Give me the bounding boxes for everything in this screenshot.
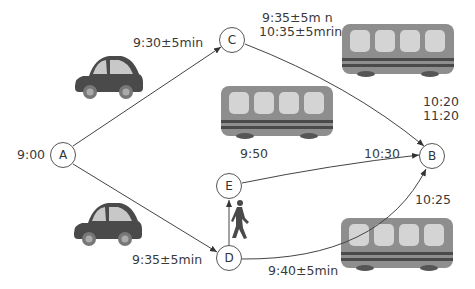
node-b-label: B bbox=[428, 149, 436, 163]
a-time-label: 9:00 bbox=[17, 147, 45, 162]
node-d: D bbox=[216, 245, 242, 271]
node-c-label: C bbox=[228, 33, 236, 47]
b-time-line2: 11:20 bbox=[423, 108, 459, 123]
node-a: A bbox=[50, 142, 76, 168]
eb-end-label: 10:30 bbox=[364, 146, 400, 161]
bus-icon bbox=[221, 86, 333, 139]
node-c: C bbox=[219, 27, 245, 53]
db-end-label: 10:25 bbox=[415, 192, 451, 207]
db-start-label: 9:40±5min bbox=[268, 263, 338, 278]
node-b: B bbox=[419, 143, 445, 169]
ad-time-label: 9:35±5min bbox=[132, 252, 202, 267]
cb-time-line1: 9:35±5m n bbox=[262, 10, 333, 25]
node-d-label: D bbox=[224, 251, 233, 265]
node-e-label: E bbox=[225, 179, 233, 193]
node-a-label: A bbox=[59, 148, 67, 162]
bus-icon bbox=[341, 218, 453, 271]
car-icon bbox=[74, 203, 142, 246]
node-e: E bbox=[216, 173, 242, 199]
b-time-line1: 10:20 bbox=[423, 94, 459, 109]
car-icon bbox=[75, 56, 143, 99]
ac-time-label: 9:30±5min bbox=[133, 35, 203, 50]
pedestrian-icon bbox=[231, 200, 249, 239]
eb-start-label: 9:50 bbox=[240, 146, 268, 161]
cb-time-line2: 10:35±5mrin bbox=[259, 24, 342, 39]
bus-icon bbox=[342, 24, 454, 77]
